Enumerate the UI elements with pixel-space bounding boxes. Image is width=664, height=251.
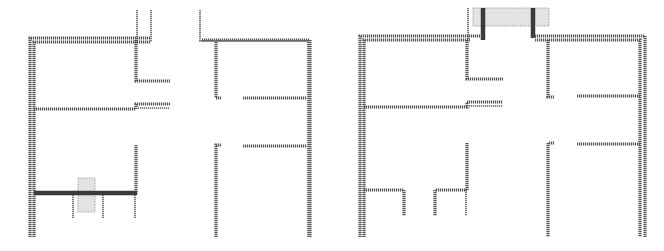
right-right-block-inner-wall-top [548, 40, 554, 97]
left-room1-right-wall [136, 40, 170, 81]
left-right-block-inner-wall-top [216, 42, 221, 98]
right-right-block-inner-wall-bottom [548, 143, 554, 237]
left-right-block-inner-wall-bottom [216, 145, 221, 237]
right-outer-wall [360, 36, 483, 237]
right-right-block-outer [533, 36, 645, 237]
right-floor-plan [360, 8, 645, 237]
right-outer-wall-inner [364, 40, 470, 237]
right-lower-wall-left [364, 190, 404, 216]
right-right-block-inner [535, 40, 640, 237]
right-lower-wall-right [435, 190, 467, 216]
floor-plan-canvas [0, 0, 664, 251]
left-right-block-wall [202, 40, 310, 237]
right-room1-right-wall [467, 40, 503, 79]
left-mid-wall [34, 104, 170, 109]
left-floor-plan [30, 10, 310, 237]
